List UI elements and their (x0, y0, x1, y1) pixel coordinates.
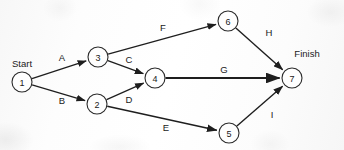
node-2-label: 2 (94, 100, 99, 110)
start-label: Start (12, 58, 32, 69)
edge-label-e: E (163, 122, 169, 133)
node-1[interactable]: 1 (12, 72, 32, 92)
node-3-label: 3 (95, 53, 100, 63)
edge-h-line (236, 28, 283, 70)
edge-label-d: D (126, 94, 133, 105)
node-6-label: 6 (225, 17, 230, 27)
network-diagram-canvas: 1234567 ABCDEFGHIStartFinish (0, 0, 344, 150)
edge-label-f: F (160, 22, 166, 33)
network-diagram-graph: 1234567 ABCDEFGHIStartFinish (0, 0, 344, 150)
node-4-label: 4 (152, 74, 157, 84)
edge-a-line (32, 61, 86, 79)
node-3[interactable]: 3 (88, 47, 108, 67)
node-5-label: 5 (226, 129, 231, 139)
node-4[interactable]: 4 (145, 68, 165, 88)
node-7-label: 7 (289, 74, 294, 84)
node-1-label: 1 (19, 78, 24, 88)
edge-label-c: C (126, 54, 133, 65)
edge-label-i: I (271, 109, 274, 120)
node-2[interactable]: 2 (87, 94, 107, 114)
edge-label-h: H (266, 27, 273, 38)
edge-label-g: G (220, 64, 227, 75)
edge-i-line (237, 86, 283, 126)
node-7[interactable]: 7 (282, 68, 302, 88)
edge-label-a: A (59, 52, 66, 63)
node-6[interactable]: 6 (218, 11, 238, 31)
finish-label: Finish (294, 48, 319, 59)
edge-label-b: B (59, 95, 65, 106)
node-5[interactable]: 5 (219, 123, 239, 143)
